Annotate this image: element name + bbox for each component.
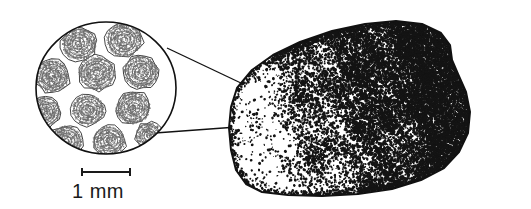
- ooid-cortex-ring: [24, 38, 42, 56]
- figure-root: 1 mm: [0, 0, 531, 209]
- ooid-cortex-ring: [27, 41, 39, 53]
- ooid-cortex-ring: [31, 44, 37, 50]
- lower-leader-line: [155, 127, 237, 133]
- stippled-rock-specimen: [228, 19, 472, 198]
- scale-bar: 1 mm: [72, 168, 130, 202]
- magnified-circular-inset: [14, 19, 176, 161]
- ooid-cortex-ring: [22, 35, 46, 60]
- scale-bar-label: 1 mm: [72, 180, 124, 202]
- upper-leader-line: [167, 48, 243, 84]
- illustration-canvas: 1 mm: [0, 0, 531, 209]
